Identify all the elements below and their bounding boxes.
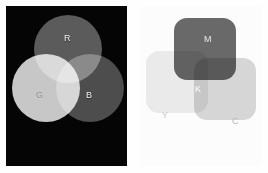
subtractive-cmyk-panel: M Y C K [134,0,268,173]
additive-diagram-stage: R G B [6,6,127,166]
additive-rgb-panel: R G B [0,0,134,173]
rgb-circle-blue [56,54,124,122]
subtractive-diagram-stage: M Y C K [140,6,261,166]
color-model-figure: R G B M Y C K [0,0,268,173]
cmyk-square-magenta [174,18,236,80]
panel-divider [133,0,134,173]
